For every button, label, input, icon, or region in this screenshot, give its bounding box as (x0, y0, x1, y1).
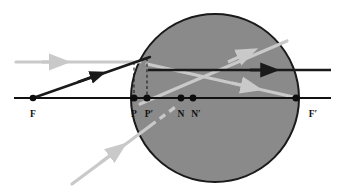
point-label-P-prime: P′ (145, 109, 154, 119)
point-label-N-prime: N′ (191, 109, 201, 119)
point-dot-N-prime (190, 95, 197, 102)
optical-ray-diagram: F P P′ N N′ F′ (0, 0, 339, 196)
point-dot-N (178, 95, 185, 102)
point-dot-F (30, 95, 37, 102)
point-dot-P (130, 94, 137, 101)
point-label-P: P (131, 109, 137, 119)
point-label-F: F (30, 109, 36, 119)
point-label-N: N (178, 109, 185, 119)
point-label-F-prime: F′ (309, 109, 318, 119)
diagram-canvas: F P P′ N N′ F′ (0, 0, 339, 196)
point-dot-F-prime (292, 94, 299, 101)
lower-incoming-ray-light-arrow (100, 148, 120, 163)
incoming-ray-from-F-dark-arrow (78, 74, 100, 82)
point-dot-P-prime (143, 94, 150, 101)
